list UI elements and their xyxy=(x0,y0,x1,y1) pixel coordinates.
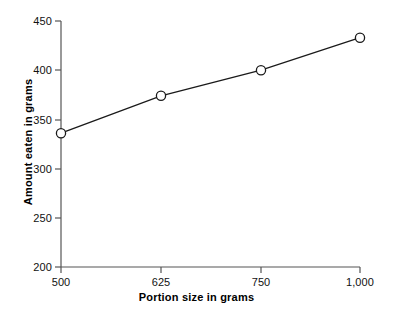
x-tick-label-625: 625 xyxy=(139,276,183,288)
x-tick-label-750: 750 xyxy=(239,276,283,288)
data-point-markers xyxy=(56,33,364,138)
x-axis-ticks xyxy=(61,267,360,273)
y-tick-label-450: 450 xyxy=(22,15,52,27)
y-tick-label-200: 200 xyxy=(22,261,52,273)
data-point-500 xyxy=(56,129,65,138)
data-point-625 xyxy=(156,91,165,100)
x-tick-label-500: 500 xyxy=(39,276,83,288)
y-axis-title: Amount eaten in grams xyxy=(22,52,34,232)
y-axis-ticks xyxy=(55,21,61,267)
x-axis-title: Portion size in grams xyxy=(0,291,393,303)
x-tick-label-1000: 1,000 xyxy=(338,276,382,288)
line-chart: 450 400 350 300 250 200 500 625 750 1,00… xyxy=(0,0,393,313)
data-point-1,000 xyxy=(355,33,364,42)
data-series-line xyxy=(61,38,360,133)
data-point-750 xyxy=(256,66,265,75)
chart-plot-area xyxy=(0,0,393,313)
